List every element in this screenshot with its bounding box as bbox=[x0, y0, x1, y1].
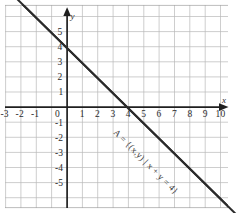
x-tick-label-neg3: -3 bbox=[0, 110, 8, 120]
x-tick-label-7: 7 bbox=[172, 110, 177, 120]
x-tick-label-2: 2 bbox=[95, 110, 100, 120]
x-tick-label-10: 10 bbox=[216, 110, 226, 120]
y-tick-label-2: 2 bbox=[58, 73, 63, 83]
axes bbox=[5, 7, 229, 208]
y-axis-label: y bbox=[71, 12, 75, 21]
y-tick-label-neg5: -5 bbox=[55, 179, 63, 189]
x-tick-label-neg1: -1 bbox=[31, 110, 39, 120]
y-tick-label-neg2: -2 bbox=[55, 134, 63, 144]
graph-figure: -3 -2 -1 0 1 2 3 4 5 6 7 8 9 10 5 4 3 2 … bbox=[0, 0, 240, 213]
x-tick-label-6: 6 bbox=[157, 110, 162, 120]
x-axis-label: x bbox=[222, 96, 226, 105]
x-tick-label-neg2: -2 bbox=[16, 110, 24, 120]
x-tick-label-8: 8 bbox=[187, 110, 192, 120]
x-tick-label-5: 5 bbox=[141, 110, 146, 120]
y-tick-label-neg1: -1 bbox=[55, 119, 63, 129]
y-tick-label-neg4: -4 bbox=[55, 164, 63, 174]
x-tick-label-1: 1 bbox=[80, 110, 85, 120]
x-tick-label-4: 4 bbox=[126, 110, 131, 120]
y-tick-label-4: 4 bbox=[58, 43, 63, 53]
x-tick-label-9: 9 bbox=[203, 110, 208, 120]
y-tick-label-3: 3 bbox=[58, 58, 63, 68]
y-tick-label-1: 1 bbox=[59, 88, 64, 98]
y-tick-label-5: 5 bbox=[58, 28, 63, 38]
x-tick-label-3: 3 bbox=[110, 110, 115, 120]
coordinate-plane bbox=[0, 0, 240, 213]
y-tick-label-neg3: -3 bbox=[55, 149, 63, 159]
